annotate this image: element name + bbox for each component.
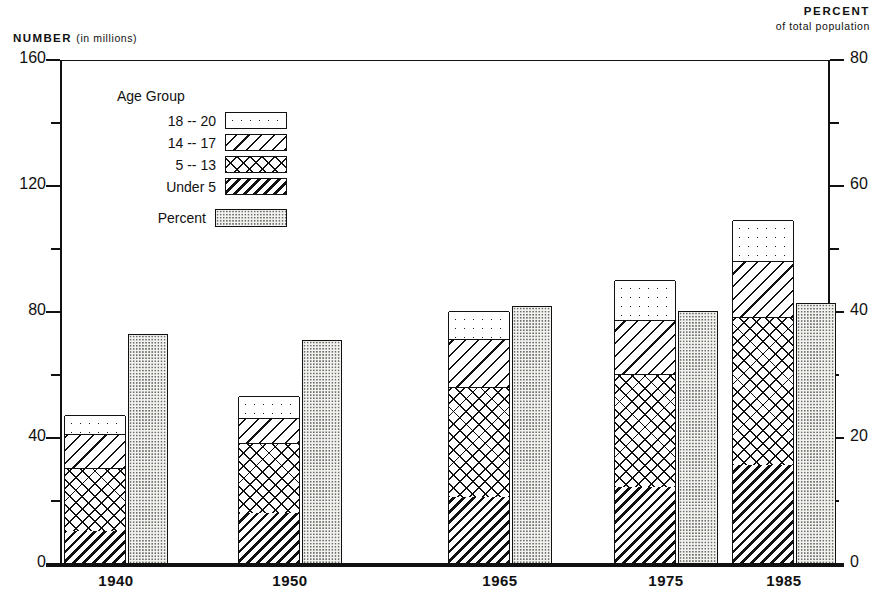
axis-tick	[51, 122, 60, 124]
axis-tick-label: 0	[850, 553, 859, 571]
bar-segment-18---20	[615, 280, 675, 321]
axis-tick-label: 40	[28, 427, 46, 445]
bar-segment-under-5	[733, 465, 793, 563]
axis-tick-label: 40	[850, 301, 868, 319]
axis-tick	[46, 185, 60, 187]
bar-segment-14---17	[65, 434, 125, 469]
legend-item: 5 -- 13	[112, 155, 287, 174]
left-axis-caption-bold: NUMBER	[13, 32, 72, 44]
bar-segment-14---17	[615, 320, 675, 374]
stacked-bar	[448, 312, 510, 564]
right-axis-caption-bold: PERCENT	[776, 5, 870, 17]
bar-segment-5---13	[449, 387, 509, 497]
right-axis-caption: PERCENT of total population	[776, 5, 870, 32]
bar-segment-5---13	[65, 468, 125, 531]
bar-segment-under-5	[615, 487, 675, 563]
bar-segment-5---13	[239, 443, 299, 512]
axis-tick	[51, 500, 60, 502]
legend: Age Group 18 -- 2014 -- 175 -- 13Under 5…	[112, 88, 287, 230]
axis-tick	[830, 122, 839, 124]
legend-swatch	[225, 156, 287, 173]
left-axis-caption-light: (in millions)	[76, 32, 137, 44]
axis-tick	[46, 563, 60, 565]
legend-item-label: Under 5	[166, 179, 216, 195]
legend-item-label: 18 -- 20	[168, 113, 216, 129]
legend-item-label: 5 -- 13	[176, 157, 216, 173]
legend-item-percent: Percent	[112, 208, 287, 227]
bar-segment-18---20	[65, 415, 125, 434]
axis-tick	[830, 59, 844, 61]
axis-tick-label: 160	[19, 49, 46, 67]
percent-bar	[678, 311, 718, 564]
chart-root: NUMBER (in millions) PERCENT of total po…	[0, 0, 881, 599]
axis-tick-label: 80	[28, 301, 46, 319]
percent-bar	[302, 340, 342, 564]
right-axis-caption-light: of total population	[776, 20, 870, 32]
legend-item-label: Percent	[158, 210, 206, 226]
legend-title: Age Group	[117, 88, 287, 104]
axis-tick-label: 20	[850, 427, 868, 445]
bar-segment-14---17	[449, 339, 509, 386]
bar-segment-18---20	[733, 220, 793, 261]
bar-segment-under-5	[239, 513, 299, 563]
legend-item: Under 5	[112, 177, 287, 196]
bar-segment-18---20	[239, 396, 299, 418]
percent-bar	[512, 306, 552, 564]
axis-tick-label: 120	[19, 175, 46, 193]
bar-segment-14---17	[239, 418, 299, 443]
legend-swatch	[225, 134, 287, 151]
bar-segment-under-5	[449, 497, 509, 563]
bar-segment-5---13	[733, 317, 793, 465]
legend-swatch	[225, 112, 287, 129]
legend-item: 14 -- 17	[112, 133, 287, 152]
x-axis-label-1975: 1975	[626, 572, 706, 589]
bar-segment-under-5	[65, 531, 125, 563]
x-axis-label-1950: 1950	[250, 572, 330, 589]
stacked-bar	[64, 416, 126, 564]
legend-item-label: 14 -- 17	[168, 135, 216, 151]
axis-tick	[46, 59, 60, 61]
left-axis-caption: NUMBER (in millions)	[13, 28, 137, 46]
legend-item: 18 -- 20	[112, 111, 287, 130]
bar-segment-5---13	[615, 374, 675, 487]
legend-swatch	[215, 209, 287, 227]
stacked-bar	[614, 281, 676, 565]
x-axis-label-1985: 1985	[744, 572, 824, 589]
percent-bar	[796, 303, 836, 564]
legend-swatch	[225, 178, 287, 195]
x-axis-label-1940: 1940	[76, 572, 156, 589]
axis-tick	[46, 311, 60, 313]
axis-tick-label: 80	[850, 49, 868, 67]
legend-items: 18 -- 2014 -- 175 -- 13Under 5Percent	[112, 111, 287, 227]
stacked-bar	[732, 221, 794, 564]
axis-tick	[830, 248, 839, 250]
stacked-bar	[238, 397, 300, 564]
bar-segment-18---20	[449, 311, 509, 339]
axis-tick	[51, 248, 60, 250]
bar-segment-14---17	[733, 261, 793, 318]
axis-tick-label: 0	[37, 553, 46, 571]
axis-tick-label: 60	[850, 175, 868, 193]
percent-bar	[128, 334, 168, 564]
x-axis-label-1965: 1965	[460, 572, 540, 589]
axis-tick	[46, 437, 60, 439]
axis-tick	[51, 374, 60, 376]
axis-tick	[830, 185, 844, 187]
